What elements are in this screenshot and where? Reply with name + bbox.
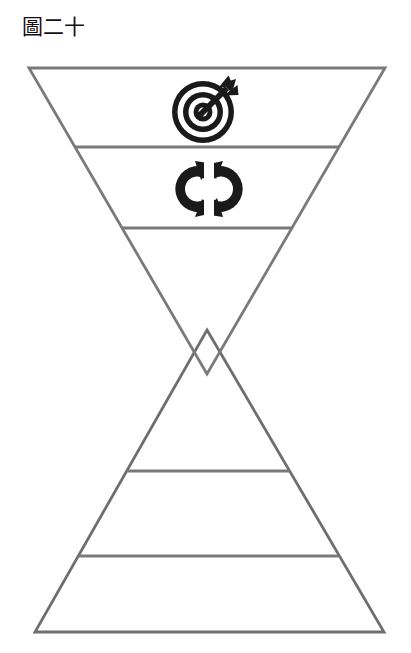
refresh-center-gap: [204, 155, 214, 223]
recycle-refresh-icon: [175, 155, 242, 223]
figure-container: 圖二十: [0, 0, 411, 653]
bottom-triangle-outline: [35, 330, 384, 632]
target-arrow-tip: [197, 112, 203, 118]
upright-triangle-bottom: [20, 330, 400, 632]
target-arrow-icon: [172, 76, 239, 144]
diagram-canvas: [0, 0, 411, 653]
